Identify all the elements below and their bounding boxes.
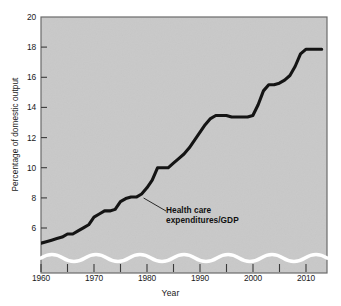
series-annotation: Health care expenditures/GDP <box>166 205 239 225</box>
chart-canvas <box>0 0 341 306</box>
x-axis-title: Year <box>0 288 341 298</box>
y-axis-title: Percentage of domestic output <box>11 35 20 235</box>
ytick-label-20: 20 <box>10 12 36 22</box>
xtick-label-1960: 1960 <box>21 273 61 283</box>
plot-area-texture <box>41 17 327 273</box>
series-annotation-line2: expenditures/GDP <box>166 215 239 225</box>
xtick-label-2010: 2010 <box>286 273 326 283</box>
xtick-label-2000: 2000 <box>233 273 273 283</box>
series-annotation-line1: Health care <box>166 205 239 215</box>
xtick-label-1970: 1970 <box>74 273 114 283</box>
xtick-label-1990: 1990 <box>180 273 220 283</box>
chart-figure: 20 18 16 14 12 10 8 6 1960 1970 1980 199… <box>0 0 341 306</box>
xtick-label-1980: 1980 <box>127 273 167 283</box>
